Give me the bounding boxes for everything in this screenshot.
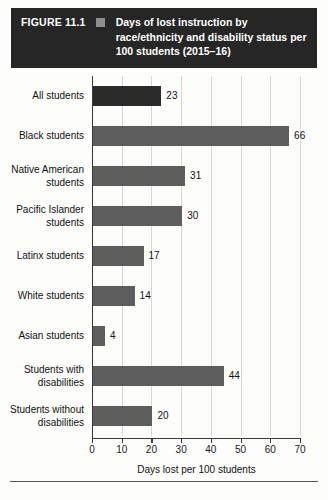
x-tick-label: 10 <box>116 444 127 455</box>
bar[interactable] <box>93 326 105 346</box>
x-tick-label: 0 <box>89 444 95 455</box>
x-tick-label: 40 <box>205 444 216 455</box>
category-label: Latinx students <box>0 250 84 263</box>
bar[interactable] <box>93 166 185 186</box>
bar-row: Asian students4 <box>0 316 328 356</box>
bar[interactable] <box>93 206 182 226</box>
x-tick-label: 70 <box>294 444 305 455</box>
bar-value-label: 66 <box>294 126 305 146</box>
x-tick-label: 50 <box>235 444 246 455</box>
bar-row: Students withdisabilities44 <box>0 356 328 396</box>
x-tick <box>181 438 182 443</box>
bar-row: All students23 <box>0 76 328 116</box>
category-label: White students <box>0 290 84 303</box>
x-tick <box>211 438 212 443</box>
bar-row: Pacific Islanderstudents30 <box>0 196 328 236</box>
bar[interactable] <box>93 286 135 306</box>
bar-row: Black students66 <box>0 116 328 156</box>
bar[interactable] <box>93 366 224 386</box>
bar-chart: 010203040506070 All students23Black stud… <box>0 72 328 472</box>
figure-page: FIGURE 11.1 Days of lost instruction by … <box>0 0 328 500</box>
category-label: Native Americanstudents <box>0 164 84 189</box>
x-axis-title: Days lost per 100 students <box>92 464 301 475</box>
bar-value-label: 20 <box>157 406 168 426</box>
bar-value-label: 14 <box>140 286 151 306</box>
category-label: Black students <box>0 130 84 143</box>
bar-value-label: 23 <box>166 86 177 106</box>
category-label: Students withdisabilities <box>0 364 84 389</box>
category-label: Pacific Islanderstudents <box>0 204 84 229</box>
legend-square-icon <box>96 18 105 27</box>
x-tick-label: 30 <box>176 444 187 455</box>
bar[interactable] <box>93 406 152 426</box>
bar[interactable] <box>93 86 161 106</box>
x-tick <box>122 438 123 443</box>
x-tick-label: 60 <box>265 444 276 455</box>
bar[interactable] <box>93 246 144 266</box>
x-tick <box>241 438 242 443</box>
figure-title: Days of lost instruction by race/ethnici… <box>116 15 309 59</box>
category-label: All students <box>0 90 84 103</box>
bar-row: Native Americanstudents31 <box>0 156 328 196</box>
bar-value-label: 17 <box>149 246 160 266</box>
bar-row: Students withoutdisabilities20 <box>0 396 328 436</box>
figure-header: FIGURE 11.1 Days of lost instruction by … <box>11 8 317 68</box>
category-label: Asian students <box>0 330 84 343</box>
bar-row: White students14 <box>0 276 328 316</box>
x-tick-label: 20 <box>146 444 157 455</box>
x-tick <box>151 438 152 443</box>
bar-value-label: 30 <box>187 206 198 226</box>
page-footer-rule <box>10 481 318 482</box>
bar-value-label: 4 <box>110 326 116 346</box>
bar[interactable] <box>93 126 289 146</box>
x-tick <box>300 438 301 443</box>
category-label: Students withoutdisabilities <box>0 404 84 429</box>
figure-number: FIGURE 11.1 <box>21 15 86 28</box>
x-tick <box>92 438 93 443</box>
bar-value-label: 31 <box>190 166 201 186</box>
bar-row: Latinx students17 <box>0 236 328 276</box>
x-tick <box>270 438 271 443</box>
bar-value-label: 44 <box>229 366 240 386</box>
